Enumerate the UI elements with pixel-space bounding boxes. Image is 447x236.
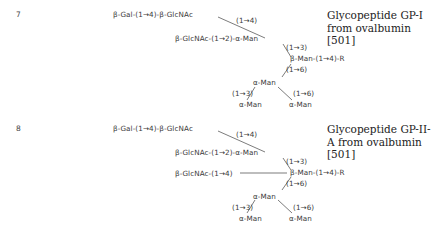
linkage-label: (1→6) [293, 89, 314, 98]
mannose-label: α-Man [239, 214, 262, 223]
branch-mid-label: β-GlcNAc-(1→2)-α-Man [175, 148, 258, 157]
mannose-label: α-Man [253, 192, 276, 201]
linkage-label: (1→6) [293, 203, 314, 212]
linkage-label: (1→4) [236, 130, 257, 139]
linkage-label: (1→3) [232, 89, 253, 98]
bisect-label: β-GlcNAc-(1→4) [175, 169, 233, 178]
branch-top-label: β-Gal-(1→4)-β-GlcNAc [113, 10, 193, 19]
branch-top-label: β-Gal-(1→4)-β-GlcNAc [113, 124, 193, 133]
mannose-label: α-Man [289, 100, 312, 109]
core-label: β-Man-(1→4)-R [290, 54, 345, 63]
mannose-label: α-Man [253, 78, 276, 87]
core-label: β-Man-(1→4)-R [290, 168, 345, 177]
linkage-label: (1→3) [286, 157, 307, 166]
structure-number: 8 [16, 124, 21, 133]
mannose-label: α-Man [289, 214, 312, 223]
mannose-label: α-Man [239, 100, 262, 109]
linkage-label: (1→3) [232, 203, 253, 212]
linkage-label: (1→6) [286, 65, 307, 74]
structure-title: Glycopeptide GP-I from ovalbumin [501] [327, 9, 445, 47]
linkage-label: (1→3) [286, 43, 307, 52]
structure-number: 7 [16, 10, 21, 19]
linkage-label: (1→6) [286, 179, 307, 188]
branch-mid-label: β-GlcNAc-(1→2)-α-Man [175, 34, 258, 43]
structure-title: Glycopeptide GP-II- A from ovalbumin [50… [327, 123, 445, 161]
linkage-label: (1→4) [236, 16, 257, 25]
